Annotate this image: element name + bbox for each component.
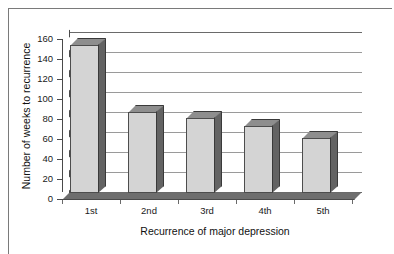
xtick-mark-2 xyxy=(178,200,179,204)
bar-5th-side xyxy=(330,131,338,193)
bar-2nd-side xyxy=(156,105,164,193)
xtick-mark-5 xyxy=(352,200,353,204)
xtick-label-2nd: 2nd xyxy=(120,205,178,216)
ytick-label-160: 160 xyxy=(27,34,53,44)
ytick-diag-160 xyxy=(62,30,70,44)
gridline-100 xyxy=(70,92,362,93)
ytick-label-20: 20 xyxy=(27,174,53,184)
bar-1st-front xyxy=(70,45,99,193)
xtick-mark-3 xyxy=(236,200,237,204)
ytick-diag-80 xyxy=(62,110,70,124)
ytick-diag-20 xyxy=(62,170,70,184)
ytick-label-0: 0 xyxy=(27,194,53,204)
bar-2nd-front xyxy=(128,112,157,193)
ytick-label-60: 60 xyxy=(27,134,53,144)
ytick-label-40: 40 xyxy=(27,154,53,164)
ytick-label-120: 120 xyxy=(27,74,53,84)
ytick-diag-60 xyxy=(62,130,70,144)
xtick-mark-1 xyxy=(120,200,121,204)
ytick-mark-100 xyxy=(57,99,63,100)
ytick-label-80: 80 xyxy=(27,114,53,124)
ytick-mark-160 xyxy=(57,39,63,40)
bar-chart-plot: Number of weeks to recurrence Recurrence… xyxy=(0,0,394,254)
bar-1st-side xyxy=(98,38,106,193)
bar-3rd-front xyxy=(186,118,215,193)
xtick-label-5th: 5th xyxy=(294,205,352,216)
ytick-mark-140 xyxy=(57,59,63,60)
xtick-label-1st: 1st xyxy=(62,205,120,216)
figure-container: Number of weeks to recurrence Recurrence… xyxy=(0,0,394,254)
xtick-mark-0 xyxy=(62,200,63,204)
ytick-mark-40 xyxy=(57,159,63,160)
ytick-diag-120 xyxy=(62,70,70,84)
xtick-label-3rd: 3rd xyxy=(178,205,236,216)
x-axis-title: Recurrence of major depression xyxy=(60,225,370,237)
xtick-label-4th: 4th xyxy=(236,205,294,216)
ytick-mark-80 xyxy=(57,119,63,120)
bar-5th-front xyxy=(302,138,331,193)
bar-3rd-side xyxy=(214,111,222,193)
bar-4th-front xyxy=(244,126,273,193)
x-axis-line xyxy=(62,199,354,200)
ytick-diag-140 xyxy=(62,50,70,64)
ytick-diag-100 xyxy=(62,90,70,104)
gridline-120 xyxy=(70,72,362,73)
xtick-mark-4 xyxy=(294,200,295,204)
plot-top-edge xyxy=(70,32,362,33)
ytick-label-140: 140 xyxy=(27,54,53,64)
ytick-mark-20 xyxy=(57,179,63,180)
ytick-mark-60 xyxy=(57,139,63,140)
ytick-mark-120 xyxy=(57,79,63,80)
bar-4th-side xyxy=(272,119,280,193)
ytick-label-100: 100 xyxy=(27,94,53,104)
gridline-140 xyxy=(70,52,362,53)
ytick-diag-40 xyxy=(62,150,70,164)
